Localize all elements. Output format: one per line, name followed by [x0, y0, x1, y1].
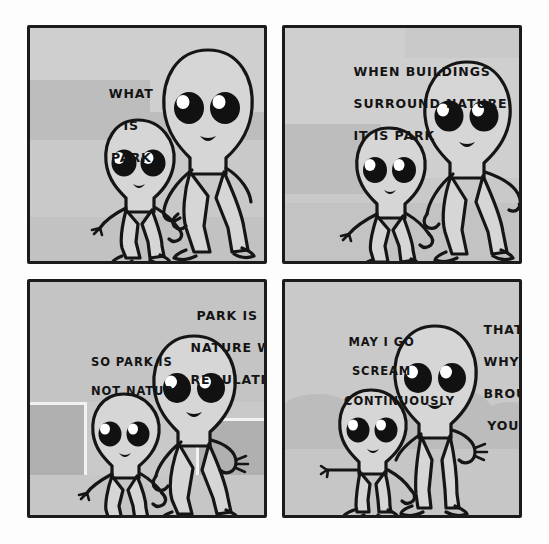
panel-3-scene: PARK IS NATURE WITH REGULATIONS SO PARK … — [30, 282, 264, 515]
caption-line-1: WHEN BUILDINGS — [354, 64, 491, 79]
caption-line-2: SCREAM — [352, 364, 411, 378]
caption-panel-4-adult: THAT IS WHY I BROUGHT YOU — [431, 306, 519, 450]
caption-line-2: NATURE WITH — [191, 340, 264, 355]
caption-line-2: IS — [124, 118, 139, 133]
caption-line-1: WHAT — [109, 86, 154, 101]
caption-panel-3-child: SO PARK IS NOT NATURE — [42, 340, 166, 414]
caption-line-3: BROUGHT — [484, 386, 519, 401]
comic-page: WHAT IS PARK — [0, 0, 549, 544]
caption-line-1: SO PARK IS — [91, 355, 173, 369]
caption-panel-2: WHEN BUILDINGS SURROUND NATURE IT IS PAR… — [301, 48, 469, 160]
panel-1-scene: WHAT IS PARK — [30, 28, 264, 261]
caption-line-1: PARK IS — [197, 308, 258, 323]
caption-line-3: REGULATIONS — [191, 372, 264, 387]
comic-panel-1: WHAT IS PARK — [27, 25, 267, 264]
caption-line-1: THAT IS — [484, 322, 519, 337]
caption-line-2: SURROUND NATURE — [354, 96, 508, 111]
caption-line-4: YOU — [487, 418, 519, 433]
caption-line-2: NOT NATURE — [91, 384, 183, 398]
comic-panel-4: MAY I GO SCREAM CONTINUOUSLY THAT IS WHY… — [282, 279, 522, 518]
comic-panel-2: WHEN BUILDINGS SURROUND NATURE IT IS PAR… — [282, 25, 522, 264]
caption-line-1: MAY I GO — [348, 335, 414, 349]
caption-panel-4-child: MAY I GO SCREAM CONTINUOUSLY — [295, 320, 419, 423]
panel-2-scene: WHEN BUILDINGS SURROUND NATURE IT IS PAR… — [285, 28, 519, 261]
comic-panel-grid: WHAT IS PARK — [27, 25, 522, 518]
panel-4-scene: MAY I GO SCREAM CONTINUOUSLY THAT IS WHY… — [285, 282, 519, 515]
caption-line-2: WHY I — [484, 354, 519, 369]
caption-line-3: PARK — [111, 150, 152, 165]
caption-line-3: IT IS PARK — [354, 128, 436, 143]
comic-panel-3: PARK IS NATURE WITH REGULATIONS SO PARK … — [27, 279, 267, 518]
caption-panel-1: WHAT IS PARK — [50, 70, 160, 182]
